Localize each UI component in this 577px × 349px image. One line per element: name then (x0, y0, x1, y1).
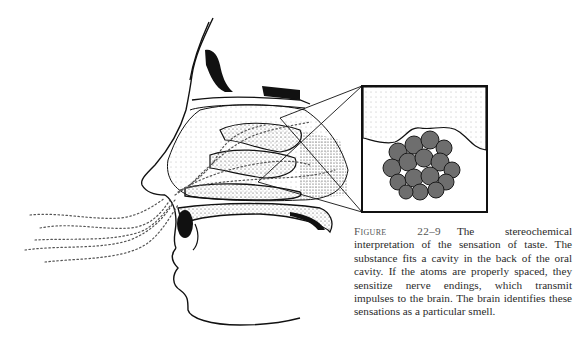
frontal-sinus (205, 50, 233, 92)
receptor-inset (362, 86, 487, 212)
caption-text: The stereochemical interpretation of the… (354, 225, 572, 317)
figure-label: Figure 22–9 (354, 225, 441, 237)
figure-caption: Figure 22–9The stereochemical interpreta… (354, 225, 572, 319)
